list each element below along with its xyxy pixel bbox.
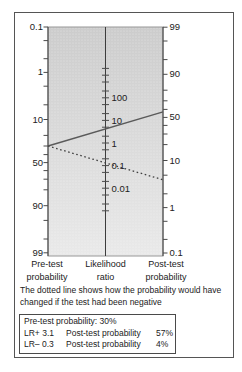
svg-text:0.1: 0.1	[170, 247, 183, 258]
svg-text:1: 1	[170, 202, 175, 213]
lr-positive-value: LR+ 3.1	[24, 328, 66, 340]
axis-title-line: probability	[132, 271, 200, 284]
svg-text:0.1: 0.1	[30, 21, 43, 32]
svg-text:10: 10	[170, 155, 181, 166]
svg-text:90: 90	[170, 68, 181, 79]
axis-title-line: Likelihood	[72, 258, 139, 271]
svg-text:50: 50	[170, 111, 181, 122]
axis-title-line: probability	[14, 271, 80, 284]
posttest-probability-label: Post-test probability	[66, 328, 156, 340]
posttest-probability-positive-value: 57%	[156, 328, 175, 340]
fagan-nomogram-chart: 0.11105090999990501010.11001010.10.01	[0, 0, 242, 260]
svg-text:0.01: 0.01	[112, 183, 131, 194]
posttest-probability-negative-value: 4%	[156, 339, 175, 351]
pretest-probability-summary: Pre-test probability: 30%	[20, 316, 175, 328]
svg-text:99: 99	[32, 247, 43, 258]
axis-title-line: Pre-test	[14, 258, 80, 271]
svg-text:50: 50	[32, 157, 43, 168]
axis-title-likelihood-ratio: Likelihood ratio	[72, 258, 139, 284]
svg-text:99: 99	[170, 21, 181, 32]
posttest-probability-label: Post-test probability	[66, 339, 156, 351]
lr-negative-value: LR– 0.3	[24, 339, 66, 351]
svg-text:90: 90	[32, 200, 43, 211]
axis-title-posttest-probability: Post-test probability	[132, 258, 200, 284]
svg-text:10: 10	[32, 114, 43, 125]
axis-title-line: ratio	[72, 271, 139, 284]
svg-text:1: 1	[38, 66, 43, 77]
lr-positive-row: LR+ 3.1 Post-test probability 57%	[20, 328, 175, 340]
figure-caption: The dotted line shows how the probabilit…	[20, 284, 232, 308]
axis-title-pretest-probability: Pre-test probability	[14, 258, 80, 284]
results-box: Pre-test probability: 30% LR+ 3.1 Post-t…	[19, 314, 176, 354]
lr-negative-row: LR– 0.3 Post-test probability 4%	[20, 339, 175, 351]
svg-text:1: 1	[112, 138, 117, 149]
svg-text:100: 100	[112, 92, 128, 103]
axis-title-line: Post-test	[132, 258, 200, 271]
